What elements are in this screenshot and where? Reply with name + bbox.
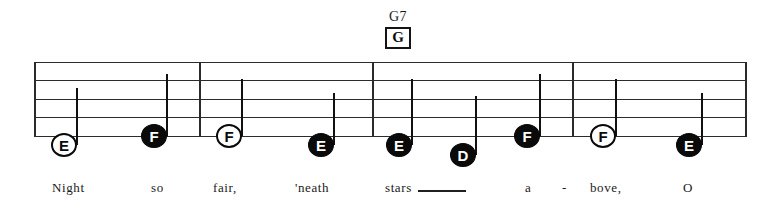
lyric-word-1: Night <box>52 180 85 196</box>
notehead-d-6[interactable]: D <box>450 143 476 167</box>
notehead-f-7[interactable]: F <box>514 124 540 148</box>
staff-line-1 <box>34 62 746 63</box>
staff-line-3 <box>34 99 746 100</box>
lyric-word-6: a <box>525 180 531 196</box>
lyric-word-5: stars <box>385 180 412 196</box>
chord-symbol-block[interactable]: G7 G <box>368 10 428 49</box>
barline-4 <box>745 62 747 137</box>
lyric-word-2: so <box>151 180 164 196</box>
notehead-e-5[interactable]: E <box>386 133 412 157</box>
notehead-f-3[interactable]: F <box>216 124 242 148</box>
chord-diagram-box: G <box>385 27 411 49</box>
lyric-word-7: - <box>562 180 567 196</box>
notehead-e-1[interactable]: E <box>51 133 77 157</box>
notehead-e-9[interactable]: E <box>676 133 702 157</box>
note-stem-6 <box>475 96 477 155</box>
lyric-word-3: fair, <box>213 180 237 196</box>
lyric-word-8: bove, <box>590 180 622 196</box>
staff-start-barline <box>34 62 36 137</box>
chord-name-label: G7 <box>368 10 428 24</box>
notehead-f-8[interactable]: F <box>590 124 616 148</box>
note-stem-2 <box>166 74 168 136</box>
note-stem-5 <box>411 79 413 145</box>
note-stem-1 <box>76 88 78 145</box>
staff-line-2 <box>34 80 746 81</box>
music-sheet-staff-system: G7 G EFFEEDFFE Nightsofair,'neathstarsa-… <box>0 0 780 210</box>
notehead-f-2[interactable]: F <box>141 124 167 148</box>
barline-3 <box>572 62 574 137</box>
notehead-e-4[interactable]: E <box>308 133 334 157</box>
note-stem-9 <box>701 93 703 145</box>
staff-line-4 <box>34 117 746 118</box>
lyric-word-9: O <box>683 180 693 196</box>
barline-1 <box>199 62 201 137</box>
lyric-extender-line <box>418 190 466 192</box>
note-stem-4 <box>333 93 335 145</box>
note-stem-7 <box>539 74 541 136</box>
note-stem-8 <box>615 79 617 136</box>
barline-2 <box>372 62 374 137</box>
lyric-word-4: 'neath <box>295 180 329 196</box>
note-stem-3 <box>241 79 243 136</box>
